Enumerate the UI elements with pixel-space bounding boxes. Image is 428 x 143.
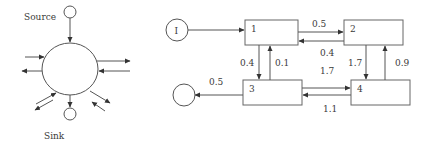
- flow-label-1-to-3: 0.4: [240, 58, 255, 68]
- diagonal-inflow-arrow-lower-right: [92, 102, 105, 111]
- four-compartment-model: I 1 2 3 4 0.5 0.4 0.4 0.1 1.7 0.9 1.7 1: [166, 19, 410, 114]
- diagonal-outflow-arrow-lower-left: [35, 100, 53, 110]
- compartment-label-1: 1: [251, 24, 257, 34]
- source-node: [64, 6, 76, 18]
- diagonal-inflow-arrow-lower-left: [36, 93, 56, 104]
- flow-label-4-to-2: 0.9: [395, 58, 410, 68]
- flow-label-3-to-4: 1.7: [320, 66, 335, 76]
- sink-node: [64, 108, 76, 120]
- flow-label-2-to-4: 1.7: [348, 58, 363, 68]
- flow-label-3-to-sink: 0.5: [209, 77, 224, 87]
- compartment-label-3: 3: [249, 84, 255, 94]
- sink-node-right: [173, 84, 195, 106]
- compartment-label-4: 4: [357, 84, 363, 94]
- flow-label-2-to-1: 0.4: [320, 48, 335, 58]
- diagonal-outflow-arrow-lower-right: [90, 91, 110, 103]
- source-label: Source: [24, 12, 56, 22]
- compartment-diagram: Source Sink I 1 2 3: [0, 0, 428, 143]
- input-node-label: I: [175, 26, 179, 36]
- compartment-label-2: 2: [350, 24, 356, 34]
- compartment-circle: [42, 43, 98, 95]
- generic-compartment-diagram: Source Sink: [22, 6, 130, 141]
- sink-label: Sink: [44, 131, 65, 141]
- flow-label-3-to-1: 0.1: [275, 58, 289, 68]
- flow-label-4-to-3: 1.1: [323, 104, 337, 114]
- flow-label-1-to-2: 0.5: [312, 19, 327, 29]
